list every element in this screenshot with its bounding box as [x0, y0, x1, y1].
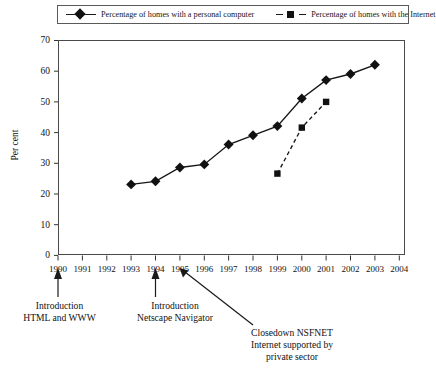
y-tick-label-70: 70 [24, 35, 50, 45]
y-tick-label-60: 60 [24, 66, 50, 76]
x-tick-label-2004: 2004 [384, 264, 414, 274]
chart-legend: Percentage of homes with a personal comp… [57, 5, 409, 24]
y-tick-label-30: 30 [24, 158, 50, 168]
legend-entry-internet: Percentage of homes with the Internet [276, 6, 435, 23]
annotation-nsfnet-line2: Internet supported by [212, 339, 372, 351]
annotation-netscape-navigator: Introduction Netscape Navigator [110, 300, 240, 324]
annotation-html-line2: HTML and WWW [2, 312, 117, 324]
legend-label-personal-computer: Percentage of homes with a personal comp… [101, 10, 254, 20]
annotation-html-and-www: Introduction HTML and WWW [2, 300, 117, 324]
y-tick-label-50: 50 [24, 97, 50, 107]
y-tick-label-10: 10 [24, 220, 50, 230]
legend-entry-personal-computer: Percentage of homes with a personal comp… [66, 6, 254, 23]
annotation-nsfnet-line1: Closedown NSFNET [212, 327, 372, 339]
legend-swatch-solid-diamond-icon [66, 9, 96, 20]
y-tick-label-40: 40 [24, 128, 50, 138]
annotation-netscape-line1: Introduction [110, 300, 240, 312]
y-axis-title: Per cent [10, 115, 20, 175]
plot-area [58, 40, 405, 255]
x-axis-ticks [58, 256, 399, 261]
legend-swatch-dashed-square-icon [276, 9, 306, 20]
annotation-html-line1: Introduction [2, 300, 117, 312]
annotation-closedown-nsfnet: Closedown NSFNET Internet supported by p… [212, 327, 372, 363]
y-tick-label-0: 0 [24, 250, 50, 260]
annotation-netscape-line2: Netscape Navigator [110, 312, 240, 324]
annotation-nsfnet-line3: private sector [212, 351, 372, 363]
legend-label-internet: Percentage of homes with the Internet [311, 10, 435, 20]
y-tick-label-20: 20 [24, 189, 50, 199]
